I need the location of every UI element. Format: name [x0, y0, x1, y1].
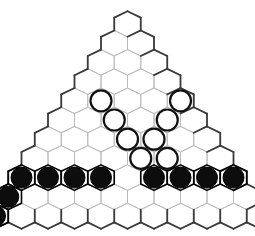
black-stone-disc [223, 167, 244, 188]
black-stone[interactable] [61, 165, 88, 191]
white-stone[interactable] [157, 110, 178, 131]
white-stone-disc [104, 110, 125, 131]
black-stone-disc [144, 167, 165, 188]
white-stone-disc [157, 110, 178, 131]
black-stone-disc [0, 186, 19, 207]
white-stone[interactable] [144, 129, 165, 150]
black-stone[interactable] [88, 165, 115, 191]
hex-board-canvas[interactable] [0, 0, 255, 236]
black-stone[interactable] [194, 165, 221, 191]
white-stone[interactable] [117, 129, 138, 150]
white-stone-disc [157, 148, 178, 169]
black-stone-disc [170, 167, 191, 188]
black-stone-disc [11, 167, 32, 188]
white-stone-disc [170, 90, 191, 111]
white-stone[interactable] [130, 148, 151, 169]
black-stone-disc [91, 167, 112, 188]
white-stone-disc [144, 129, 165, 150]
white-stone[interactable] [91, 90, 112, 111]
black-stone[interactable] [220, 165, 247, 191]
black-stone-disc [38, 167, 59, 188]
black-stone[interactable] [35, 165, 62, 191]
white-stone[interactable] [170, 90, 191, 111]
white-stone-disc [91, 90, 112, 111]
white-stone[interactable] [104, 110, 125, 131]
black-stone-disc [197, 167, 218, 188]
white-stone-disc [117, 129, 138, 150]
white-stone[interactable] [157, 148, 178, 169]
hex-board-panel [0, 0, 255, 236]
white-stone-disc [130, 148, 151, 169]
black-stone-disc [64, 167, 85, 188]
